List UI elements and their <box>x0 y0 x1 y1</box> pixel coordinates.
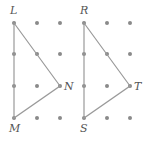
grid-dot <box>105 21 109 25</box>
triangle-lmn-figure: LNM <box>8 4 74 135</box>
triangle-LMN <box>14 23 60 118</box>
vertex-label-l: L <box>9 4 17 17</box>
geometry-diagram: LNM RTS <box>0 0 147 141</box>
grid-dot <box>35 116 39 120</box>
triangle-RST <box>84 23 130 118</box>
grid-dot <box>128 116 132 120</box>
grid-dot <box>128 52 132 56</box>
vertex-label-n: N <box>63 80 74 93</box>
grid-dot <box>105 116 109 120</box>
vertex-label-s: S <box>80 122 88 135</box>
vertex-label-r: R <box>79 4 88 17</box>
triangle-rst-figure: RTS <box>79 4 143 135</box>
grid-dot <box>35 84 39 88</box>
grid-dot <box>105 84 109 88</box>
vertex-label-t: T <box>134 80 143 93</box>
grid-dot <box>128 21 132 25</box>
grid-dot <box>58 52 62 56</box>
grid-dot <box>58 116 62 120</box>
vertex-label-m: M <box>8 122 21 135</box>
grid-dot <box>58 21 62 25</box>
grid-dot <box>35 21 39 25</box>
